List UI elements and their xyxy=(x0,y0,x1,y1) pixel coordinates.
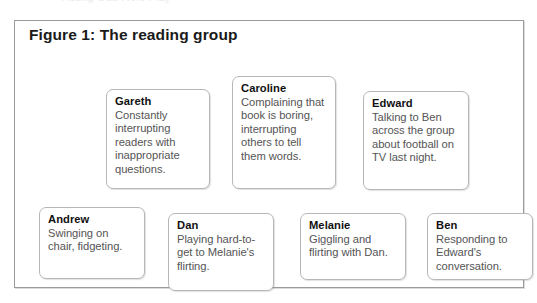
person-card-andrew: Andrew Swinging on chair, fidgeting. xyxy=(39,207,145,279)
person-description-dan: Playing hard-to-get to Melanie's flirtin… xyxy=(177,233,266,274)
person-description-melanie: Giggling and flirting with Dan. xyxy=(309,233,398,260)
figure-frame: Figure 1: The reading group Gareth Const… xyxy=(14,20,524,288)
person-card-dan: Dan Playing hard-to-get to Melanie's fli… xyxy=(168,213,274,291)
person-name-caroline: Caroline xyxy=(241,82,328,96)
person-card-caroline: Caroline Complaining that book is boring… xyxy=(232,76,336,189)
person-card-gareth: Gareth Constantly interrupting readers w… xyxy=(106,89,210,189)
person-name-gareth: Gareth xyxy=(115,95,202,109)
figure-caption-title: Figure 1: The reading group xyxy=(29,26,238,44)
person-description-caroline: Complaining that book is boring, interru… xyxy=(241,96,328,164)
person-name-ben: Ben xyxy=(436,219,525,233)
person-description-gareth: Constantly interrupting readers with ina… xyxy=(115,109,202,177)
person-card-edward: Edward Talking to Ben across the group a… xyxy=(363,91,469,190)
clipped-header-label: Acting Out: Role Play xyxy=(62,0,171,3)
person-card-melanie: Melanie Giggling and flirting with Dan. xyxy=(300,213,406,280)
person-name-melanie: Melanie xyxy=(309,219,398,233)
person-description-ben: Responding to Edward's conversation. xyxy=(436,233,525,274)
person-card-ben: Ben Responding to Edward's conversation. xyxy=(427,213,533,280)
figure-page: Acting Out: Role Play Figure 1: The read… xyxy=(0,0,537,303)
person-description-andrew: Swinging on chair, fidgeting. xyxy=(48,227,137,254)
person-name-andrew: Andrew xyxy=(48,213,137,227)
person-description-edward: Talking to Ben across the group about fo… xyxy=(372,111,461,165)
clipped-header-text: Acting Out: Role Play xyxy=(0,0,537,12)
person-name-edward: Edward xyxy=(372,97,461,111)
person-name-dan: Dan xyxy=(177,219,266,233)
